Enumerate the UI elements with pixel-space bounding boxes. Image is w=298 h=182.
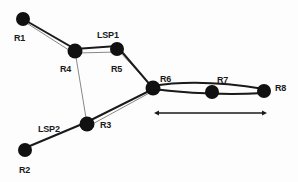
label-r4: R4 <box>60 64 71 74</box>
label-r3: R3 <box>100 120 111 130</box>
label-lsp2: LSP2 <box>38 124 60 134</box>
physical-links <box>25 22 264 127</box>
node-r4 <box>68 44 83 59</box>
label-r7: R7 <box>217 75 228 85</box>
network-diagram: R1 R4 R5 R6 R7 R8 R3 R2 LSP1 LSP2 <box>0 0 298 182</box>
double-arrow <box>154 111 267 116</box>
node-r8 <box>257 84 271 98</box>
node-r1 <box>16 12 30 26</box>
diagram-graphics <box>0 0 298 182</box>
link-r1-r4 <box>25 22 75 54</box>
label-r5: R5 <box>111 64 122 74</box>
link-r3-r6 <box>87 91 153 127</box>
label-r2: R2 <box>19 165 30 175</box>
node-r5 <box>110 42 124 56</box>
label-r8: R8 <box>275 83 286 93</box>
label-r1: R1 <box>14 33 25 43</box>
node-r2 <box>18 143 32 157</box>
label-lsp1: LSP1 <box>97 30 119 40</box>
node-r6 <box>146 81 161 96</box>
lsp2-path <box>25 89 264 148</box>
link-r4-r3 <box>75 51 87 124</box>
label-r6: R6 <box>160 74 171 84</box>
node-r3 <box>80 117 95 132</box>
node-r7 <box>205 85 219 99</box>
